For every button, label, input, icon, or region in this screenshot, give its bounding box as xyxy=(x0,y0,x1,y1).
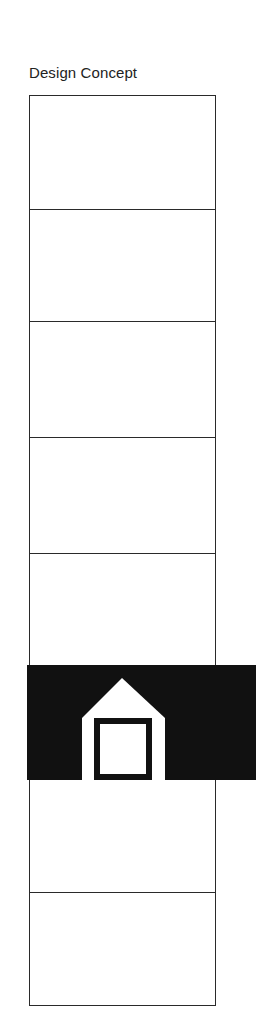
house-icon xyxy=(0,0,256,1010)
